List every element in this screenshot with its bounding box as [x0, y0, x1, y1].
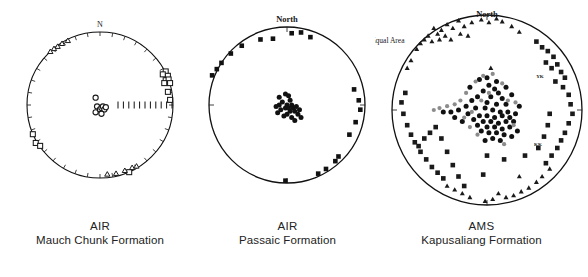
- caption-unit-3: Kapusaliang Formation: [375, 233, 588, 247]
- dashed-tick-row: [118, 102, 172, 109]
- orientation-label-north-3: North: [476, 9, 498, 19]
- stereonet-plot-mauch-chunk: N: [0, 0, 200, 215]
- caption-unit-2: Passaic Formation: [200, 233, 375, 247]
- data-point-group-1: [30, 38, 172, 176]
- caption-method-1: AIR: [0, 219, 200, 233]
- data-point-group-3: [399, 16, 575, 203]
- orientation-label-north-2: North: [276, 14, 298, 24]
- stereonet-plot-passaic: North: [200, 0, 375, 215]
- caption-method-3: AMS: [375, 219, 588, 233]
- stereonet-figure: N AIR Mauch Chunk Formation North AIR Pa…: [0, 0, 588, 277]
- stereonet-panel-passaic: North: [200, 0, 375, 215]
- caption-method-2: AIR: [200, 219, 375, 233]
- stereonet-plot-kapusaliang: North Equal Area YKKK: [375, 0, 588, 215]
- caption-unit-1: Mauch Chunk Formation: [0, 233, 200, 247]
- orientation-label-north-1: N: [97, 20, 103, 29]
- projection-label-equal-area: Equal Area: [375, 36, 405, 45]
- rim-annotation-yk: YK: [536, 74, 544, 79]
- data-point-group-2: [210, 30, 363, 183]
- stereonet-panel-mauch-chunk: N: [0, 0, 200, 215]
- stereonet-panel-kapusaliang: North Equal Area YKKK: [375, 0, 588, 215]
- panel-caption-passaic: AIR Passaic Formation: [200, 219, 375, 247]
- rim-annotation-kk: KK: [534, 142, 542, 147]
- panel-caption-mauch-chunk: AIR Mauch Chunk Formation: [0, 219, 200, 247]
- panel-caption-kapusaliang: AMS Kapusaliang Formation: [375, 219, 588, 247]
